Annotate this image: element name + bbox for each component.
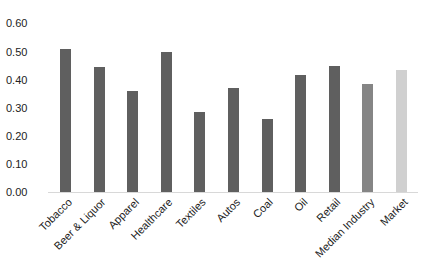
bar-market (396, 70, 407, 192)
bar-healthcare (161, 52, 172, 193)
y-tick-label: 0.50 (6, 46, 44, 58)
x-tick-label: Textiles (173, 196, 207, 230)
y-tick-label: 0.30 (6, 102, 44, 114)
bar-textiles (194, 112, 205, 192)
bar-apparel (127, 91, 138, 192)
x-tick-label: Median Industry (313, 196, 377, 260)
x-tick-label: Autos (213, 196, 241, 224)
bar-median-industry (362, 84, 373, 192)
bar-chart: 0.000.100.200.300.400.500.60 TobaccoBeer… (0, 0, 433, 273)
bar-oil (295, 75, 306, 192)
bar-retail (329, 66, 340, 192)
x-tick-label: Oil (291, 196, 309, 214)
y-tick-label: 0.40 (6, 74, 44, 86)
bar-beer-liquor (94, 67, 105, 192)
bar-tobacco (60, 49, 71, 192)
y-tick-label: 0.10 (6, 158, 44, 170)
bar-coal (262, 119, 273, 192)
x-tick-label: Retail (314, 196, 342, 224)
x-tick-label: Coal (250, 196, 274, 220)
x-axis-line (48, 192, 418, 193)
x-tick-label: Market (377, 196, 409, 228)
y-tick-label: 0.20 (6, 130, 44, 142)
y-tick-label: 0.60 (6, 17, 44, 29)
bar-autos (228, 88, 239, 192)
y-tick-label: 0.00 (6, 186, 44, 198)
